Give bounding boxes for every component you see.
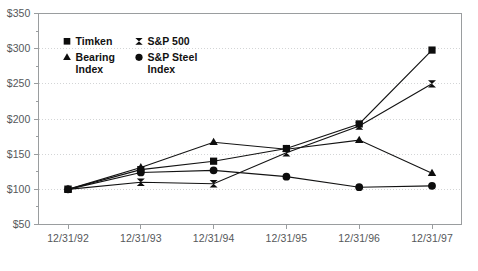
- marker-square: [210, 158, 217, 165]
- legend-label-line2: Index: [148, 63, 176, 75]
- legend-label: Timken: [76, 35, 113, 47]
- y-tick-label: $250: [7, 77, 31, 89]
- y-tick-label: $200: [7, 113, 31, 125]
- marker-circle: [137, 169, 145, 177]
- x-tick-label: 12/31/96: [338, 232, 380, 244]
- marker-circle: [428, 182, 436, 190]
- marker-circle: [283, 173, 291, 181]
- legend-label: S&P Steel: [148, 51, 198, 63]
- marker-square: [64, 38, 71, 45]
- x-tick-label: 12/31/93: [120, 232, 162, 244]
- y-tick-label: $150: [7, 148, 31, 160]
- chart-canvas: $50$100$150$200$250$300$350 12/31/9212/3…: [0, 0, 478, 271]
- marker-circle: [135, 54, 142, 61]
- legend-label-line2: Index: [76, 63, 104, 75]
- y-tick-label: $300: [7, 42, 31, 54]
- marker-circle: [355, 183, 363, 191]
- x-tick-label: 12/31/92: [47, 232, 89, 244]
- stock-performance-chart: $50$100$150$200$250$300$350 12/31/9212/3…: [0, 0, 478, 271]
- x-tick-label: 12/31/97: [411, 232, 453, 244]
- y-tick-label: $100: [7, 183, 31, 195]
- marker-square: [428, 46, 435, 53]
- legend-label: S&P 500: [148, 35, 190, 47]
- marker-circle: [210, 166, 218, 174]
- marker-circle: [64, 185, 72, 193]
- legend-label: Bearing: [76, 51, 115, 63]
- y-tick-label: $350: [7, 7, 31, 19]
- x-tick-label: 12/31/94: [193, 232, 235, 244]
- x-tick-label: 12/31/95: [266, 232, 308, 244]
- chart-background: [0, 0, 478, 271]
- y-tick-label: $50: [13, 218, 31, 230]
